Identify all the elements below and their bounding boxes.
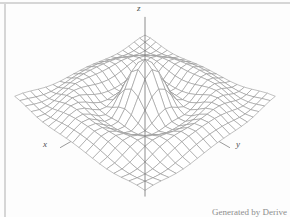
figure-page: z x y Generated by Derive: [0, 0, 290, 217]
y-axis-label: y: [236, 140, 240, 149]
surface-plot: [0, 0, 290, 217]
credit-text: Generated by Derive: [212, 207, 287, 217]
x-axis-label: x: [43, 140, 47, 149]
z-axis-label: z: [137, 4, 141, 13]
